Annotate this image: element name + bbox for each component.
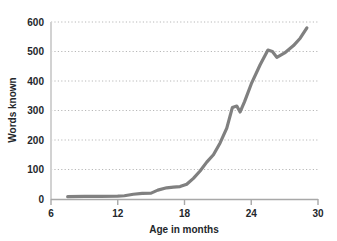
x-tick-label-30: 30 bbox=[312, 208, 324, 219]
y-tick-label-300: 300 bbox=[27, 105, 44, 116]
x-tick-label-6: 6 bbox=[48, 208, 54, 219]
x-tick-label-12: 12 bbox=[112, 208, 124, 219]
y-tick-label-600: 600 bbox=[27, 17, 44, 28]
y-tick-label-400: 400 bbox=[27, 76, 44, 87]
x-tick-label-18: 18 bbox=[179, 208, 191, 219]
x-axis-title: Age in months bbox=[149, 224, 219, 235]
line-chart: 0100200300400500600 612182430 Age in mon… bbox=[0, 0, 337, 241]
y-tick-labels-group: 0100200300400500600 bbox=[27, 17, 44, 205]
chart-container: 0100200300400500600 612182430 Age in mon… bbox=[0, 0, 337, 241]
gridlines-group bbox=[51, 22, 318, 170]
x-tick-labels-group: 612182430 bbox=[48, 208, 324, 219]
y-tick-label-100: 100 bbox=[27, 164, 44, 175]
y-axis-title: Words known bbox=[7, 77, 18, 142]
y-tick-label-200: 200 bbox=[27, 135, 44, 146]
y-tick-label-500: 500 bbox=[27, 46, 44, 57]
y-tick-label-0: 0 bbox=[38, 194, 44, 205]
x-tick-label-24: 24 bbox=[246, 208, 258, 219]
data-series-line bbox=[68, 28, 307, 197]
